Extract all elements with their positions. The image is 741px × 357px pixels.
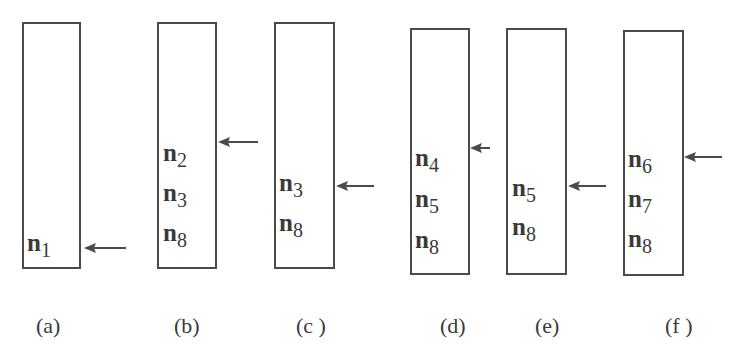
stack-item: n3 [279,170,303,203]
item-base: n [163,139,177,166]
item-subscript: 5 [526,184,536,206]
item-subscript: 6 [642,155,652,177]
item-subscript: 8 [293,219,303,241]
pointer-arrow-icon [216,134,260,150]
pointer-arrow-icon [334,178,376,194]
item-base: n [415,144,429,171]
panel-caption-a: (a) [36,313,60,339]
item-base: n [415,185,429,212]
panel-caption-b: (b) [174,313,200,339]
stack-item: n8 [279,210,303,243]
item-base: n [628,225,642,252]
item-base: n [512,213,526,240]
pointer-arrow-icon [82,240,128,256]
item-base: n [163,179,177,206]
item-subscript: 8 [429,236,439,258]
stack-item: n6 [628,146,652,179]
panel-caption-c: (c ) [296,313,326,339]
item-subscript: 3 [177,189,187,211]
item-subscript: 8 [177,229,187,251]
stack-item: n8 [163,220,187,253]
panel-caption-d: (d) [440,313,466,339]
item-subscript: 1 [41,239,51,261]
stack-item: n5 [415,186,439,219]
stack-item: n4 [415,145,439,178]
item-subscript: 8 [642,235,652,257]
panel-caption-f: (f ) [665,313,692,339]
stack-item: n1 [27,230,51,263]
stack-item: n5 [512,175,536,208]
item-base: n [279,169,293,196]
item-subscript: 4 [429,154,439,176]
item-base: n [279,209,293,236]
pointer-arrow-icon [468,140,492,156]
stack-item: n8 [512,214,536,247]
item-subscript: 2 [177,149,187,171]
item-subscript: 7 [642,195,652,217]
item-subscript: 8 [526,223,536,245]
item-base: n [163,219,177,246]
pointer-arrow-icon [566,178,608,194]
item-base: n [27,229,41,256]
item-base: n [512,174,526,201]
item-subscript: 5 [429,195,439,217]
stack-item: n3 [163,180,187,213]
stack-item: n8 [415,227,439,260]
item-base: n [628,185,642,212]
panel-caption-e: (e) [535,313,559,339]
item-subscript: 3 [293,179,303,201]
pointer-arrow-icon [682,149,724,165]
item-base: n [415,226,429,253]
stack-item: n2 [163,140,187,173]
stack-item: n8 [628,226,652,259]
item-base: n [628,145,642,172]
stack-item: n7 [628,186,652,219]
